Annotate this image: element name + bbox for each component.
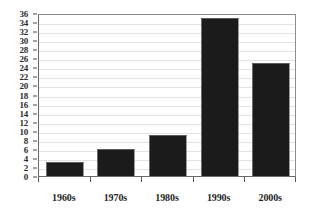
y-axis-tick-label: 8 (24, 136, 28, 145)
y-axis-tick-label: 36 (19, 10, 28, 19)
x-axis-ticks (38, 177, 296, 183)
y-axis-tick-label: 20 (19, 82, 28, 91)
x-axis-tick-mark (141, 177, 142, 182)
y-axis-tick-label: 24 (19, 64, 28, 73)
bar (97, 149, 135, 176)
bar (201, 18, 239, 176)
bar-series (39, 15, 295, 176)
x-axis-tick-label: 1970s (104, 192, 127, 203)
y-axis-tick-mark (33, 113, 37, 114)
x-axis: 1960s1970s1980s1990s2000s (38, 186, 296, 210)
y-axis-tick-mark (33, 177, 37, 178)
y-axis-tick-label: 18 (19, 91, 28, 100)
y-axis-tick-label: 30 (19, 37, 28, 46)
y-axis-tick-label: 34 (19, 19, 28, 28)
bar-chart: 024681012141618202224262830323436 1960s1… (0, 0, 309, 222)
y-axis-tick-label: 2 (24, 163, 28, 172)
y-axis-tick-mark (33, 158, 37, 159)
y-axis-tick-mark (33, 86, 37, 87)
y-axis-tick-mark (33, 59, 37, 60)
y-axis-tick-mark (33, 14, 37, 15)
y-axis-tick-label: 6 (24, 145, 28, 154)
y-axis-tick-label: 26 (19, 55, 28, 64)
y-axis-tick-label: 32 (19, 28, 28, 37)
y-axis-tick-label: 22 (19, 73, 28, 82)
y-axis-tick-label: 12 (19, 118, 28, 127)
y-axis-tick-mark (33, 50, 37, 51)
y-axis-tick-mark (33, 77, 37, 78)
y-axis-tick-label: 16 (19, 100, 28, 109)
x-axis-tick-mark (38, 177, 39, 182)
y-axis-tick-mark (33, 149, 37, 150)
x-axis-tick-mark (295, 177, 296, 182)
y-axis-tick-mark (33, 167, 37, 168)
bar (46, 162, 84, 176)
x-axis-tick-mark (90, 177, 91, 182)
y-axis-tick-mark (33, 32, 37, 33)
y-axis-tick-mark (33, 122, 37, 123)
plot-area (38, 14, 296, 177)
y-axis-tick-label: 14 (19, 109, 28, 118)
x-axis-tick-label: 1980s (155, 192, 178, 203)
y-axis-tick-mark (33, 41, 37, 42)
y-axis-tick-mark (33, 95, 37, 96)
y-axis-tick-label: 0 (24, 173, 28, 182)
x-axis-tick-mark (244, 177, 245, 182)
x-axis-tick-mark (193, 177, 194, 182)
y-axis-tick-mark (33, 131, 37, 132)
y-axis-tick-mark (33, 104, 37, 105)
bar (252, 63, 290, 176)
y-axis-tick-mark (33, 23, 37, 24)
y-axis-tick-label: 10 (19, 127, 28, 136)
y-axis-tick-mark (33, 68, 37, 69)
x-axis-tick-label: 1990s (207, 192, 230, 203)
y-axis-tick-mark (33, 140, 37, 141)
y-axis-tick-label: 28 (19, 46, 28, 55)
bar (149, 135, 187, 176)
x-axis-tick-label: 2000s (258, 192, 281, 203)
x-axis-tick-label: 1960s (52, 192, 75, 203)
y-axis-tick-label: 4 (24, 154, 28, 163)
y-axis: 024681012141618202224262830323436 (0, 0, 30, 222)
